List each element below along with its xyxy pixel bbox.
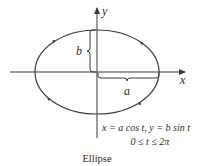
equation-line-2: 0 ≤ t ≤ 2π xyxy=(131,136,171,147)
ellipse-diagram: y x b a x = a cos t, y = b sin t 0 ≤ t ≤… xyxy=(0,0,219,166)
equation-line-1: x = a cos t, y = b sin t xyxy=(101,122,190,133)
caption: Ellipse xyxy=(82,153,112,164)
a-brace xyxy=(98,73,159,81)
y-axis-label: y xyxy=(101,4,108,18)
a-label: a xyxy=(124,84,130,98)
b-label: b xyxy=(76,44,82,58)
b-brace xyxy=(87,30,96,72)
x-axis-label: x xyxy=(179,73,186,87)
